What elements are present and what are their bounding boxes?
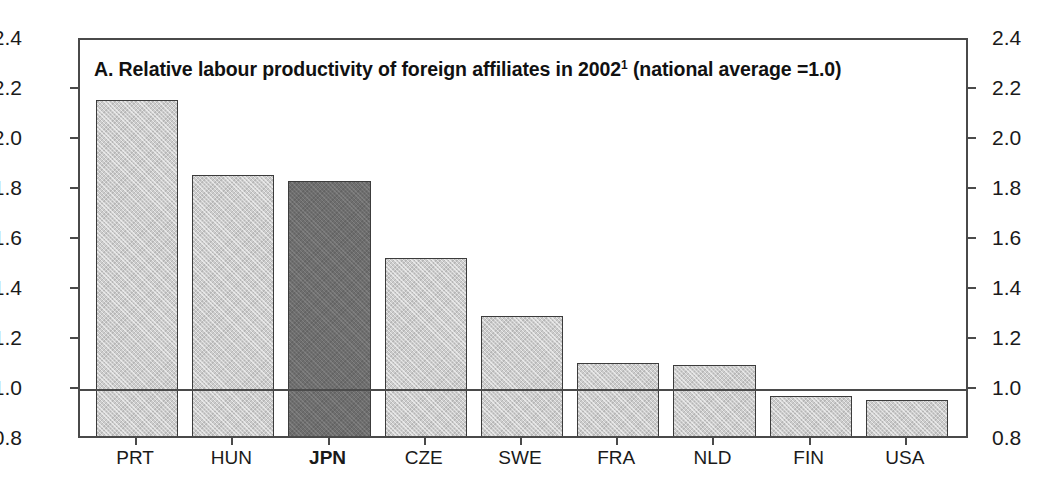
y-tick-mark-right-3 xyxy=(968,187,976,189)
chart-title: A. Relative labour productivity of forei… xyxy=(94,58,841,81)
y-tick-label-right-1: 2.2 xyxy=(992,77,1021,98)
bar-cze xyxy=(385,258,467,439)
y-tick-mark-left-7 xyxy=(70,387,78,389)
x-axis-label-fin: FIN xyxy=(768,447,850,469)
y-tick-label-right-7: 1.0 xyxy=(992,377,1021,398)
y-tick-label-left-0: 2.4 xyxy=(0,27,22,48)
x-tick-mark-cze xyxy=(424,438,426,445)
y-tick-mark-left-2 xyxy=(70,137,78,139)
y-tick-mark-right-7 xyxy=(968,387,976,389)
x-axis-label-fra: FRA xyxy=(575,447,657,469)
y-tick-mark-right-1 xyxy=(968,87,976,89)
x-tick-mark-nld xyxy=(712,438,714,445)
y-tick-label-right-6: 1.2 xyxy=(992,327,1021,348)
y-tick-mark-left-6 xyxy=(70,337,78,339)
x-tick-mark-fin xyxy=(809,438,811,445)
chart-title-main: A. Relative labour productivity of forei… xyxy=(94,58,621,80)
x-tick-mark-swe xyxy=(520,438,522,445)
y-tick-label-left-1: 2.2 xyxy=(0,77,22,98)
bar-jpn xyxy=(288,181,370,438)
y-tick-label-right-0: 2.4 xyxy=(992,27,1021,48)
x-axis-label-prt: PRT xyxy=(94,447,176,469)
y-tick-mark-right-6 xyxy=(968,337,976,339)
x-tick-mark-hun xyxy=(231,438,233,445)
y-tick-label-left-4: 1.6 xyxy=(0,227,22,248)
x-tick-mark-fra xyxy=(616,438,618,445)
y-tick-mark-left-3 xyxy=(70,187,78,189)
chart-title-tail: (national average =1.0) xyxy=(628,58,842,80)
y-tick-mark-right-4 xyxy=(968,237,976,239)
x-axis-label-hun: HUN xyxy=(190,447,272,469)
bar-hun xyxy=(192,175,274,438)
y-tick-label-right-5: 1.4 xyxy=(992,277,1021,298)
y-tick-mark-right-5 xyxy=(968,287,976,289)
bar-fra xyxy=(577,363,659,439)
chart-figure: 2.42.22.01.81.61.41.21.00.8 2.42.22.01.8… xyxy=(0,0,1056,492)
bar-swe xyxy=(481,316,563,438)
y-tick-label-left-3: 1.8 xyxy=(0,177,22,198)
y-tick-mark-right-2 xyxy=(968,137,976,139)
x-axis-label-swe: SWE xyxy=(479,447,561,469)
x-axis-label-cze: CZE xyxy=(383,447,465,469)
y-tick-label-left-7: 1.0 xyxy=(0,377,22,398)
bar-fin xyxy=(770,396,852,438)
x-axis-label-usa: USA xyxy=(864,447,946,469)
y-tick-label-left-5: 1.4 xyxy=(0,277,22,298)
y-tick-label-right-3: 1.8 xyxy=(992,177,1021,198)
bar-nld xyxy=(673,365,755,438)
reference-line-1-0 xyxy=(80,389,966,391)
plot-area: A. Relative labour productivity of forei… xyxy=(78,38,968,438)
y-tick-mark-left-4 xyxy=(70,237,78,239)
y-tick-mark-left-1 xyxy=(70,87,78,89)
y-tick-mark-left-5 xyxy=(70,287,78,289)
y-tick-label-right-8: 0.8 xyxy=(992,427,1021,448)
y-tick-label-right-2: 2.0 xyxy=(992,127,1021,148)
y-tick-label-right-4: 1.6 xyxy=(992,227,1021,248)
x-axis-label-jpn: JPN xyxy=(286,447,368,469)
x-tick-mark-prt xyxy=(135,438,137,445)
y-tick-label-left-8: 0.8 xyxy=(0,427,22,448)
x-axis-label-nld: NLD xyxy=(671,447,753,469)
x-tick-mark-usa xyxy=(905,438,907,445)
y-tick-label-left-2: 2.0 xyxy=(0,127,22,148)
x-tick-mark-jpn xyxy=(328,438,330,445)
chart-title-footnote-marker: 1 xyxy=(621,58,628,72)
y-tick-label-left-6: 1.2 xyxy=(0,327,22,348)
bar-usa xyxy=(866,400,948,438)
bar-prt xyxy=(96,100,178,438)
